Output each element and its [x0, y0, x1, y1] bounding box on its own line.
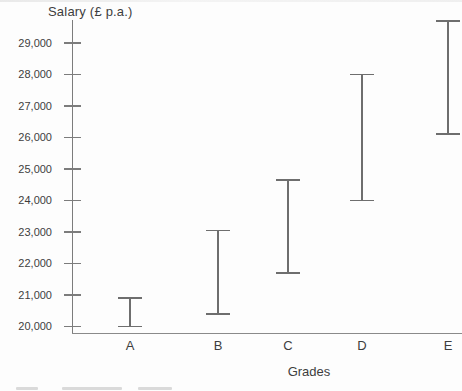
y-axis-tick-label: 21,000	[4, 290, 52, 301]
x-axis-label-E: E	[433, 339, 462, 352]
x-axis-title: Grades	[281, 364, 337, 379]
y-axis-line	[72, 20, 73, 333]
y-axis-tick	[64, 263, 81, 264]
range-bar-D-max-cap	[350, 74, 374, 76]
range-bar-C-min-cap	[276, 272, 300, 274]
range-bar-B-min-cap	[206, 313, 230, 315]
y-axis-tick-label: 26,000	[4, 132, 52, 143]
y-axis-tick-label: 28,000	[4, 69, 52, 80]
y-axis-tick	[64, 200, 81, 201]
y-axis-tick-label: 23,000	[4, 227, 52, 238]
range-bar-D	[361, 75, 363, 201]
range-bar-E-max-cap	[436, 20, 460, 22]
x-axis-line	[72, 333, 462, 335]
range-bar-C	[287, 180, 289, 273]
y-axis-tick-label: 22,000	[4, 258, 52, 269]
x-axis-label-D: D	[347, 339, 377, 352]
salary-range-chart: Salary (£ p.a.) 20,00021,00022,00023,000…	[0, 0, 462, 391]
y-axis-tick	[64, 137, 81, 138]
y-axis-tick	[64, 168, 81, 169]
range-bar-A-min-cap	[118, 326, 142, 328]
y-axis-tick-label: 27,000	[4, 101, 52, 112]
y-axis-tick	[64, 231, 81, 232]
y-axis-tick-label: 25,000	[4, 164, 52, 175]
x-axis-label-B: B	[203, 339, 233, 352]
scan-artifact-top-edge	[0, 0, 462, 2]
y-axis-tick	[64, 42, 81, 43]
clipped-caption-fragment	[16, 387, 276, 391]
range-bar-A-max-cap	[118, 297, 142, 299]
x-axis-label-C: C	[273, 339, 303, 352]
range-bar-E	[447, 21, 449, 134]
range-bar-D-min-cap	[350, 200, 374, 202]
range-bar-B-max-cap	[206, 230, 230, 232]
y-axis-tick	[64, 326, 81, 327]
range-bar-A	[129, 298, 131, 326]
y-axis-tick-label: 29,000	[4, 38, 52, 49]
y-axis-tick-label: 20,000	[4, 321, 52, 332]
y-axis-tick	[64, 74, 81, 75]
x-axis-label-A: A	[115, 339, 145, 352]
range-bar-B	[217, 230, 219, 313]
y-axis-tick-label: 24,000	[4, 195, 52, 206]
y-axis-tick	[64, 105, 81, 106]
y-axis-title: Salary (£ p.a.)	[48, 4, 133, 19]
range-bar-E-min-cap	[436, 133, 460, 135]
y-axis-tick	[64, 294, 81, 295]
range-bar-C-max-cap	[276, 179, 300, 181]
